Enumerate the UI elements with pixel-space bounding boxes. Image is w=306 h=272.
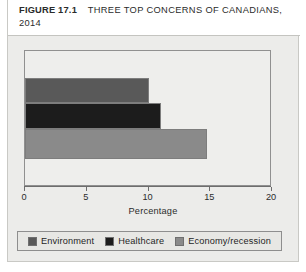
x-tick-label-15: 15 bbox=[204, 192, 214, 202]
legend-label-economy-recession: Economy/recession bbox=[188, 236, 271, 246]
x-tick-label-20: 20 bbox=[266, 192, 276, 202]
chart-legend: EnvironmentHealthcareEconomy/recession bbox=[17, 231, 282, 251]
bars-layer bbox=[25, 51, 270, 185]
legend-swatch-icon-environment bbox=[28, 237, 37, 246]
figure-container: FIGURE 17.1 THREE TOP CONCERNS OF CANADI… bbox=[0, 0, 306, 272]
legend-label-healthcare: Healthcare bbox=[118, 236, 164, 246]
legend-swatch-icon-healthcare bbox=[105, 237, 114, 246]
legend-item-environment[interactable]: Environment bbox=[28, 236, 94, 246]
x-tick-20 bbox=[271, 187, 272, 191]
x-tick-0 bbox=[24, 187, 25, 191]
legend-swatch-icon-economy-recession bbox=[175, 237, 184, 246]
figure-caption-band: FIGURE 17.1 THREE TOP CONCERNS OF CANADI… bbox=[8, 0, 300, 36]
figure-number: FIGURE 17.1 bbox=[19, 5, 77, 15]
x-tick-10 bbox=[148, 187, 149, 191]
bar-economy-recession bbox=[25, 129, 207, 159]
plot-area bbox=[24, 50, 271, 186]
legend-item-economy-recession[interactable]: Economy/recession bbox=[175, 236, 271, 246]
x-tick-label-10: 10 bbox=[142, 192, 152, 202]
x-tick-5 bbox=[86, 187, 87, 191]
bar-healthcare bbox=[25, 103, 161, 129]
x-tick-label-0: 0 bbox=[21, 192, 26, 202]
legend-item-healthcare[interactable]: Healthcare bbox=[105, 236, 164, 246]
legend-label-environment: Environment bbox=[41, 236, 94, 246]
figure-caption: FIGURE 17.1 THREE TOP CONCERNS OF CANADI… bbox=[19, 4, 292, 29]
x-tick-15 bbox=[209, 187, 210, 191]
x-tick-label-5: 5 bbox=[83, 192, 88, 202]
bar-environment bbox=[25, 78, 149, 103]
x-axis-title: Percentage bbox=[0, 206, 306, 216]
